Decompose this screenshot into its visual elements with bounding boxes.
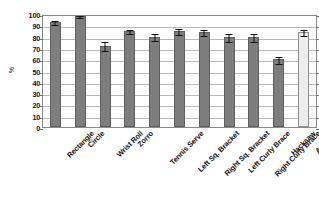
error-bar xyxy=(278,57,279,64)
bar xyxy=(50,22,61,127)
y-tick-label: 100 xyxy=(18,12,40,19)
bar xyxy=(174,31,185,127)
y-tick-mark xyxy=(316,39,319,40)
bar-chart: % 1009080706050403020100 RectangleCircle… xyxy=(0,0,319,203)
bar-slot xyxy=(117,16,142,127)
error-bar-cap-bottom xyxy=(300,36,307,37)
bar xyxy=(124,31,135,127)
bar-slot xyxy=(291,16,316,127)
plot-area xyxy=(42,15,317,128)
bar xyxy=(298,32,309,127)
bar-slot xyxy=(43,16,68,127)
bar-slot xyxy=(192,16,217,127)
bar xyxy=(199,32,210,127)
error-bar-cap-bottom xyxy=(250,42,257,43)
bar xyxy=(75,16,86,127)
error-bar-cap-top xyxy=(77,16,84,17)
error-bar-cap-bottom xyxy=(275,64,282,65)
bar xyxy=(248,37,259,127)
y-tick-label: 70 xyxy=(18,46,40,53)
error-bar-cap-bottom xyxy=(102,51,109,52)
error-bar xyxy=(253,34,254,42)
y-tick-mark xyxy=(316,84,319,85)
error-bar xyxy=(204,30,205,37)
error-bar-cap-bottom xyxy=(176,35,183,36)
y-tick-label: 0 xyxy=(18,125,40,132)
error-bar-cap-top xyxy=(52,21,59,22)
error-bar-cap-top xyxy=(151,34,158,35)
y-tick-label: 30 xyxy=(18,91,40,98)
bar-slot xyxy=(266,16,291,127)
x-axis-tick-labels: RectangleCircleWrist RollZorroTennis Ser… xyxy=(42,129,317,203)
error-bar-cap-bottom xyxy=(77,18,84,19)
error-bar-cap-bottom xyxy=(226,42,233,43)
y-tick-label: 60 xyxy=(18,58,40,65)
error-bar-cap-top xyxy=(226,34,233,35)
error-bar-cap-bottom xyxy=(52,25,59,26)
error-bar xyxy=(154,34,155,41)
y-tick-mark xyxy=(316,106,319,107)
error-bar-cap-top xyxy=(300,30,307,31)
y-tick-mark xyxy=(316,95,319,96)
y-tick-mark xyxy=(316,118,319,119)
error-bar-cap-top xyxy=(275,57,282,58)
y-tick-mark xyxy=(316,16,319,17)
bar-series xyxy=(43,16,316,127)
y-tick-mark xyxy=(316,27,319,28)
y-axis-tick-labels: 1009080706050403020100 xyxy=(16,16,40,128)
error-bar-cap-bottom xyxy=(151,41,158,42)
y-tick-label: 10 xyxy=(18,114,40,121)
bar-slot xyxy=(68,16,93,127)
y-tick-mark xyxy=(316,73,319,74)
bar xyxy=(100,46,111,127)
y-tick-mark xyxy=(316,50,319,51)
y-tick-label: 90 xyxy=(18,24,40,31)
bar xyxy=(224,37,235,127)
y-tick-label: 80 xyxy=(18,35,40,42)
error-bar-cap-top xyxy=(126,30,133,31)
error-bar-cap-bottom xyxy=(201,36,208,37)
error-bar xyxy=(229,34,230,42)
y-tick-label: 50 xyxy=(18,69,40,76)
y-tick-label: 20 xyxy=(18,103,40,110)
error-bar-cap-bottom xyxy=(126,34,133,35)
error-bar-cap-top xyxy=(201,30,208,31)
bar-slot xyxy=(242,16,267,127)
bar xyxy=(149,37,160,127)
y-tick-mark xyxy=(316,61,319,62)
bar-slot xyxy=(93,16,118,127)
y-tick-label: 40 xyxy=(18,80,40,87)
error-bar xyxy=(105,42,106,51)
bar-slot xyxy=(142,16,167,127)
bar xyxy=(273,59,284,127)
error-bar-cap-top xyxy=(102,42,109,43)
error-bar-cap-top xyxy=(176,29,183,30)
x-tick-label: Tennis Serve xyxy=(167,129,205,167)
bar-slot xyxy=(217,16,242,127)
bar-slot xyxy=(167,16,192,127)
error-bar-cap-top xyxy=(250,34,257,35)
